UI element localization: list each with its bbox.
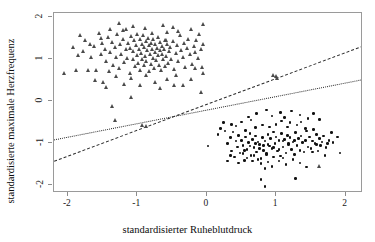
data-point <box>253 146 256 149</box>
data-point <box>194 38 198 42</box>
data-point <box>251 160 254 163</box>
data-point <box>274 142 277 145</box>
data-point <box>278 148 281 151</box>
data-point <box>267 133 270 136</box>
data-point <box>242 144 245 147</box>
data-point <box>121 37 125 41</box>
y-axis-tick-label: 0 <box>35 98 45 103</box>
data-point <box>110 104 114 108</box>
data-point <box>237 134 240 137</box>
data-point <box>189 77 193 81</box>
data-point <box>124 47 128 51</box>
y-axis-tick <box>48 184 52 185</box>
data-point <box>315 133 318 136</box>
data-point <box>237 162 240 165</box>
data-point <box>251 138 254 141</box>
data-point <box>289 136 292 139</box>
data-point <box>272 131 275 134</box>
data-point <box>93 78 97 82</box>
data-point <box>326 142 329 145</box>
data-point <box>293 139 296 142</box>
data-point <box>247 141 250 144</box>
data-point <box>285 152 288 155</box>
data-point <box>189 27 193 31</box>
data-point <box>258 147 261 150</box>
data-point <box>193 66 197 70</box>
data-point <box>165 30 169 34</box>
data-point <box>249 145 252 148</box>
data-point <box>167 49 171 53</box>
data-point <box>296 124 299 127</box>
data-point <box>300 135 303 138</box>
x-axis-tick <box>67 192 68 196</box>
data-point <box>260 157 263 160</box>
data-point <box>156 35 160 39</box>
data-point <box>300 121 303 124</box>
data-point <box>260 162 263 165</box>
data-point <box>132 38 136 42</box>
data-point <box>207 145 210 148</box>
data-point <box>240 139 243 142</box>
data-point <box>255 112 258 115</box>
data-point <box>144 73 148 77</box>
data-point <box>303 151 306 154</box>
data-point <box>278 160 281 163</box>
data-point <box>129 95 133 99</box>
data-point <box>261 136 264 139</box>
data-point <box>239 152 242 155</box>
data-point <box>141 33 145 37</box>
x-axis-tick <box>206 192 207 196</box>
data-point <box>101 80 105 84</box>
data-point <box>107 69 111 73</box>
data-point <box>322 135 325 138</box>
data-point <box>113 45 117 49</box>
data-point <box>74 68 78 72</box>
data-point <box>299 149 302 152</box>
data-point <box>197 32 201 36</box>
data-point <box>287 142 290 145</box>
data-point <box>330 131 333 134</box>
data-point <box>100 41 104 45</box>
data-point <box>244 129 247 132</box>
data-point <box>275 136 278 139</box>
data-point <box>179 48 183 52</box>
data-point <box>81 49 85 53</box>
data-point <box>181 83 185 87</box>
x-axis-tick-label: -2 <box>63 199 71 209</box>
data-point <box>304 139 307 142</box>
data-point <box>142 63 146 67</box>
data-point <box>186 37 190 41</box>
data-point <box>264 140 267 143</box>
data-point <box>165 77 169 81</box>
data-point <box>199 47 203 51</box>
data-point <box>244 136 247 139</box>
data-point <box>217 133 220 136</box>
data-point <box>293 153 296 156</box>
data-point <box>278 139 281 142</box>
data-point <box>271 165 274 168</box>
y-axis-tick-label: 1 <box>35 56 45 61</box>
data-point <box>144 124 148 128</box>
data-point <box>151 37 155 41</box>
data-point <box>71 45 75 49</box>
data-point <box>312 128 315 131</box>
data-point <box>122 82 126 86</box>
data-point <box>286 126 289 129</box>
data-point <box>118 42 122 46</box>
data-point <box>200 65 204 69</box>
data-point <box>230 123 233 126</box>
data-point <box>128 71 132 75</box>
data-point <box>114 74 118 78</box>
data-point <box>174 51 178 55</box>
data-point <box>267 143 270 146</box>
data-point <box>99 52 103 56</box>
data-point <box>88 42 92 46</box>
data-point <box>305 130 308 133</box>
data-point <box>175 43 179 47</box>
data-point <box>136 61 140 65</box>
data-point <box>304 127 307 130</box>
data-point <box>262 149 265 152</box>
data-point <box>150 31 154 35</box>
data-point <box>289 121 292 124</box>
data-point <box>246 157 249 160</box>
